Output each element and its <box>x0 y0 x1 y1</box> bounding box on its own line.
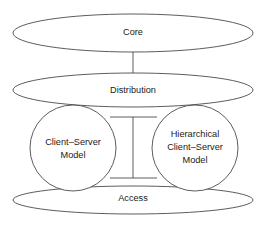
core-layer-label: Core <box>123 27 143 37</box>
distribution-layer-label: Distribution <box>110 85 156 95</box>
client-server-model-circle[interactable] <box>30 105 116 191</box>
hierarchical-client-server-model-label-line-3: Model <box>182 155 207 165</box>
network-layer-diagram: Core Distribution Access Client–Server M… <box>0 0 267 227</box>
access-layer-label: Access <box>118 193 148 203</box>
client-server-model-label-line-1: Client–Server <box>45 137 101 147</box>
diagram-canvas: Core Distribution Access Client–Server M… <box>0 0 267 227</box>
client-server-model-label-line-2: Model <box>60 150 85 160</box>
hierarchical-client-server-model-label-line-2: Client–Server <box>167 142 223 152</box>
hierarchical-client-server-model-label-line-1: Hierarchical <box>171 129 220 139</box>
